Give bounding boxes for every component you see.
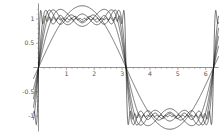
x-tick-label: 6 <box>204 70 208 77</box>
x-tick-label: 3 <box>120 70 124 77</box>
x-tick-label: 1 <box>64 70 68 77</box>
chart-figure: 123456-1-0.50.51 <box>0 0 222 135</box>
chart-canvas: 123456-1-0.50.51 <box>0 0 222 135</box>
y-tick-label: -1 <box>28 112 34 119</box>
x-tick-label: 2 <box>92 70 96 77</box>
x-tick-label: 5 <box>176 70 180 77</box>
y-tick-label: 1 <box>30 15 34 22</box>
x-tick-label: 4 <box>148 70 152 77</box>
y-tick-label: -0.5 <box>22 88 34 95</box>
y-tick-label: 0.5 <box>24 39 34 46</box>
